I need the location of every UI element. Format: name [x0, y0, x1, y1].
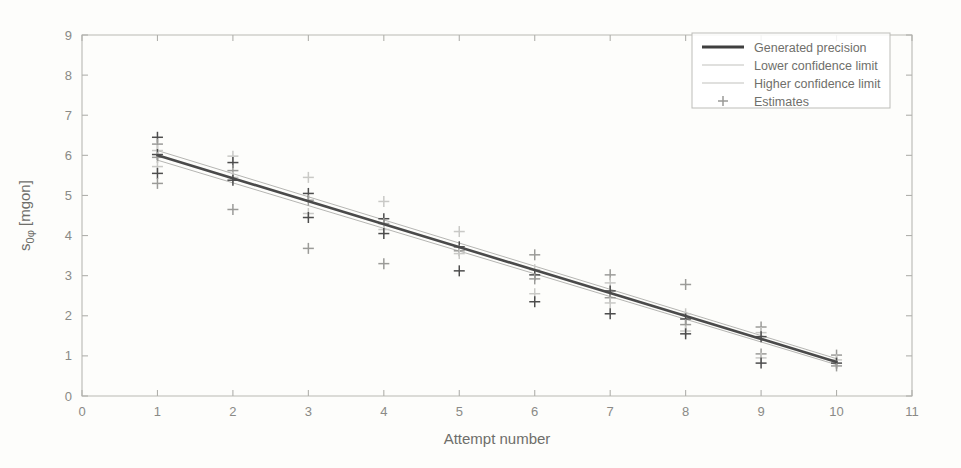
x-tick-label: 2 [229, 404, 236, 419]
legend-label: Estimates [754, 95, 809, 109]
y-tick-label: 0 [65, 389, 72, 404]
y-tick-label: 8 [65, 68, 72, 83]
y-tick-label: 6 [65, 148, 72, 163]
y-tick-label: 3 [65, 268, 72, 283]
legend-label: Generated precision [754, 41, 867, 55]
chart-svg: 01234567891011 0123456789 Generated prec… [0, 0, 961, 468]
x-tick-label: 0 [78, 404, 85, 419]
x-tick-label: 11 [905, 404, 919, 419]
y-axis-title: s0φ [mgon] [16, 180, 36, 251]
chart-figure: 01234567891011 0123456789 Generated prec… [0, 0, 961, 468]
legend-label: Lower confidence limit [754, 59, 878, 73]
x-tick-label: 4 [380, 404, 387, 419]
y-tick-label: 4 [65, 228, 72, 243]
y-tick-label: 9 [65, 28, 72, 43]
y-tick-label: 2 [65, 308, 72, 323]
y-tick-label: 5 [65, 188, 72, 203]
estimate-marker [454, 226, 465, 237]
estimate-marker [152, 178, 163, 189]
estimate-marker [680, 279, 691, 290]
chart-legend: Generated precisionLower confidence limi… [692, 33, 890, 109]
legend-label: Higher confidence limit [754, 77, 881, 91]
x-tick-label: 5 [456, 404, 463, 419]
x-tick-label: 8 [682, 404, 689, 419]
x-tick-label: 9 [757, 404, 764, 419]
generated-precision-line [157, 155, 836, 362]
estimate-marker [529, 296, 540, 307]
estimate-marker [378, 196, 389, 207]
estimate-marker [605, 297, 616, 308]
estimate-marker [454, 265, 465, 276]
y-tick-label: 1 [65, 348, 72, 363]
estimate-marker [529, 249, 540, 260]
x-axis-title: Attempt number [444, 430, 551, 447]
y-tick-label: 7 [65, 108, 72, 123]
estimate-marker [152, 168, 163, 179]
estimate-marker [756, 358, 767, 369]
estimate-marker [303, 172, 314, 183]
estimate-marker [605, 308, 616, 319]
x-tick-label: 7 [607, 404, 614, 419]
confidence-line [157, 160, 836, 365]
x-tick-label: 3 [305, 404, 312, 419]
estimate-marker [303, 243, 314, 254]
estimate-marker [680, 328, 691, 339]
x-tick-label: 6 [531, 404, 538, 419]
confidence-line [157, 151, 836, 359]
estimate-marker [378, 258, 389, 269]
estimate-marker [227, 204, 238, 215]
trend-line [157, 155, 836, 362]
x-tick-label: 10 [829, 404, 843, 419]
x-tick-label: 1 [154, 404, 161, 419]
